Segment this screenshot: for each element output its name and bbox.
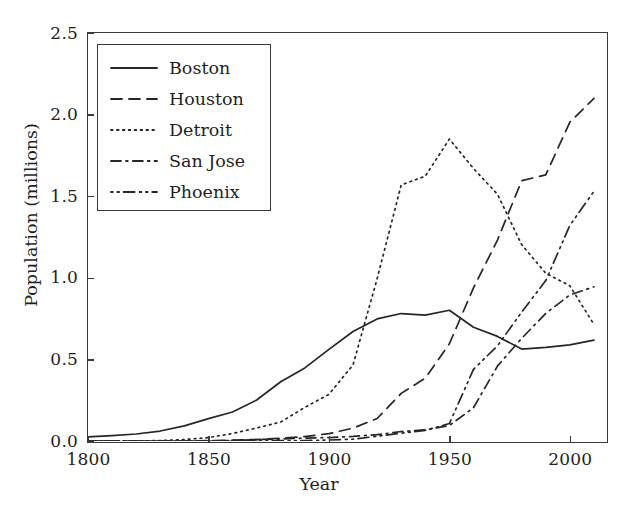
series-line-phoenix bbox=[88, 191, 594, 441]
legend-label: Detroit bbox=[161, 120, 232, 140]
legend-item-boston[interactable]: Boston bbox=[98, 52, 270, 83]
y-tickmark bbox=[87, 114, 94, 116]
legend-line-sample bbox=[107, 154, 161, 168]
legend-line-sample bbox=[107, 123, 161, 137]
y-tickmark bbox=[87, 196, 94, 198]
x-axis-label: Year bbox=[0, 474, 638, 494]
series-line-san-jose bbox=[88, 287, 594, 441]
legend-label: Houston bbox=[161, 89, 244, 109]
x-tick-label: 1950 bbox=[415, 449, 485, 469]
x-tickmark bbox=[449, 436, 451, 443]
legend-item-detroit[interactable]: Detroit bbox=[98, 114, 270, 145]
legend-line-sample bbox=[107, 185, 161, 199]
x-tickmark bbox=[570, 436, 572, 443]
x-tick-label: 1900 bbox=[294, 449, 364, 469]
x-tickmark bbox=[329, 436, 331, 443]
y-tick-label: 0.0 bbox=[18, 431, 78, 451]
y-tickmark bbox=[87, 278, 94, 280]
legend-label: San Jose bbox=[161, 151, 245, 171]
legend-line-sample bbox=[107, 92, 161, 106]
x-tickmark bbox=[208, 436, 210, 443]
legend-label: Boston bbox=[161, 58, 230, 78]
legend-line-sample bbox=[107, 61, 161, 75]
legend-item-houston[interactable]: Houston bbox=[98, 83, 270, 114]
legend-item-phoenix[interactable]: Phoenix bbox=[98, 176, 270, 207]
series-line-boston bbox=[88, 310, 594, 437]
x-tick-label: 1800 bbox=[54, 449, 124, 469]
x-tick-label: 1850 bbox=[174, 449, 244, 469]
legend-label: Phoenix bbox=[161, 182, 240, 202]
legend: BostonHoustonDetroitSan JosePhoenix bbox=[97, 44, 271, 211]
y-tick-label: 0.5 bbox=[18, 349, 78, 369]
y-axis-label: Population (millions) bbox=[21, 100, 41, 330]
legend-item-san-jose[interactable]: San Jose bbox=[98, 145, 270, 176]
population-line-chart: 0.00.51.01.52.02.5 18001850190019502000 … bbox=[0, 0, 638, 515]
x-tickmark bbox=[88, 436, 90, 443]
y-tick-label: 2.5 bbox=[18, 23, 78, 43]
x-tick-label: 2000 bbox=[535, 449, 605, 469]
y-tickmark bbox=[87, 359, 94, 361]
y-tickmark bbox=[87, 33, 94, 35]
